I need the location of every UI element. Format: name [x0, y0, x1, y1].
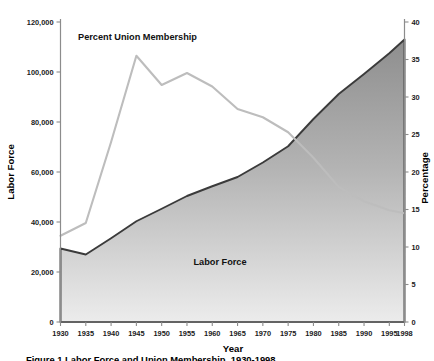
x-tick-label-10: 1980 — [305, 329, 321, 338]
x-tick-label-13: 1995 — [381, 329, 397, 338]
x-axis-title: Year — [223, 343, 244, 354]
plot-area — [61, 40, 405, 323]
x-tick-label-4: 1950 — [153, 329, 169, 338]
x-tick-label-7: 1965 — [229, 329, 245, 338]
left-tick-label-2: 40,000 — [31, 218, 54, 227]
left-tick-label-5: 100,000 — [27, 68, 54, 77]
x-tick-label-1: 1935 — [78, 329, 94, 338]
union-series-label: Percent Union Membership — [78, 32, 197, 42]
left-tick-label-0: 0 — [49, 318, 53, 327]
labor-force-union-membership-chart: 020,00040,00060,00080,000100,000120,000 … — [0, 0, 434, 361]
left-axis-ticks: 020,00040,00060,00080,000100,000120,000 — [27, 18, 61, 327]
left-tick-label-1: 20,000 — [31, 268, 54, 277]
x-tick-label-0: 1930 — [52, 329, 68, 338]
y2-axis-title: Percentage — [419, 152, 430, 204]
right-tick-label-3: 15 — [412, 205, 420, 214]
right-tick-label-2: 10 — [412, 243, 420, 252]
right-tick-label-5: 25 — [412, 130, 420, 139]
right-tick-label-8: 40 — [412, 18, 420, 27]
x-tick-label-2: 1940 — [103, 329, 119, 338]
right-tick-label-0: 0 — [412, 318, 416, 327]
left-tick-label-6: 120,000 — [27, 18, 54, 27]
right-tick-label-1: 5 — [412, 280, 416, 289]
x-tick-label-11: 1985 — [331, 329, 347, 338]
x-tick-label-12: 1990 — [356, 329, 372, 338]
figure-caption: Figure 1 Labor Force and Union Membershi… — [0, 354, 434, 361]
right-tick-label-6: 30 — [412, 93, 420, 102]
x-tick-label-5: 1955 — [179, 329, 195, 338]
left-tick-label-3: 60,000 — [31, 168, 54, 177]
right-axis-ticks: 0510152025303540 — [405, 18, 420, 327]
labor-force-series-label: Labor Force — [193, 257, 246, 267]
x-tick-label-9: 1975 — [280, 329, 296, 338]
right-tick-label-7: 35 — [412, 55, 420, 64]
y-axis-title: Labor Force — [5, 144, 16, 199]
figure-caption-clip: Figure 1 Labor Force and Union Membershi… — [0, 354, 434, 361]
x-tick-label-3: 1945 — [128, 329, 144, 338]
x-tick-label-14: 1998 — [396, 329, 412, 338]
x-tick-label-6: 1960 — [204, 329, 220, 338]
x-axis-ticks: 1930193519401945195019551960196519701975… — [52, 322, 412, 338]
figure-container: 020,00040,00060,00080,000100,000120,000 … — [0, 0, 434, 361]
x-tick-label-8: 1970 — [255, 329, 271, 338]
left-tick-label-4: 80,000 — [31, 118, 54, 127]
labor-force-area — [61, 40, 405, 323]
